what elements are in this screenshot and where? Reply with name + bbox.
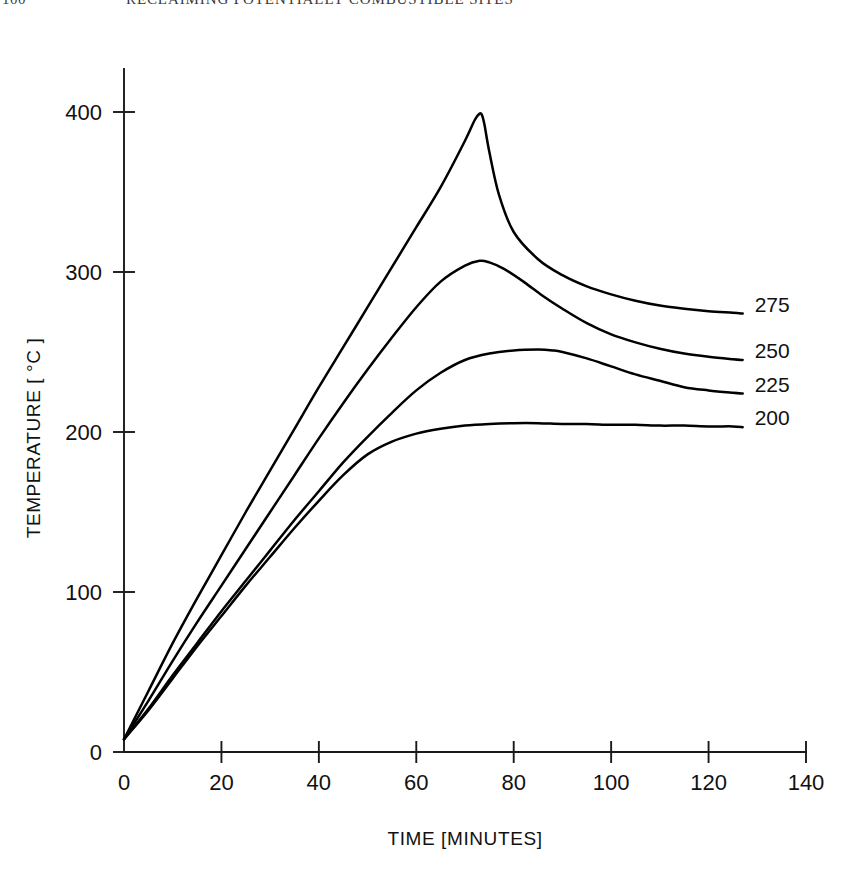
curve-200 xyxy=(124,423,743,739)
y-tick-label-100: 100 xyxy=(65,580,102,605)
y-tick-label-200: 200 xyxy=(65,420,102,445)
temperature-time-plot: 0100200300400 020406080100120140 2752502… xyxy=(0,14,852,872)
x-tick-label-120: 120 xyxy=(690,770,727,795)
series-label-250: 250 xyxy=(755,339,790,362)
chart-figure: 0100200300400 020406080100120140 2752502… xyxy=(0,14,852,872)
y-axis-title: TEMPERATURE [ °C ] xyxy=(23,338,44,539)
data-curves xyxy=(124,113,743,739)
page-number: 100 xyxy=(2,0,26,8)
page-running-head: 100 RECLAIMING POTENTIALLY COMBUSTIBLE S… xyxy=(0,0,852,11)
y-tick-label-0: 0 xyxy=(90,740,102,765)
series-label-225: 225 xyxy=(755,373,790,396)
series-label-200: 200 xyxy=(755,406,790,429)
x-tick-label-100: 100 xyxy=(593,770,630,795)
series-end-labels: 275250225200 xyxy=(755,293,790,430)
curve-250 xyxy=(124,261,743,740)
x-tick-label-80: 80 xyxy=(501,770,525,795)
x-tick-label-60: 60 xyxy=(404,770,428,795)
x-axis-ticks: 020406080100120140 xyxy=(118,741,824,795)
running-title: RECLAIMING POTENTIALLY COMBUSTIBLE SITES xyxy=(126,0,514,8)
plot-axes xyxy=(124,69,806,752)
x-axis-title: TIME [MINUTES] xyxy=(387,828,542,849)
y-tick-label-300: 300 xyxy=(65,260,102,285)
x-tick-label-40: 40 xyxy=(307,770,331,795)
x-tick-label-140: 140 xyxy=(788,770,825,795)
x-tick-label-0: 0 xyxy=(118,770,130,795)
series-label-275: 275 xyxy=(755,293,790,316)
x-tick-label-20: 20 xyxy=(209,770,233,795)
y-tick-label-400: 400 xyxy=(65,100,102,125)
curve-225 xyxy=(124,350,743,740)
